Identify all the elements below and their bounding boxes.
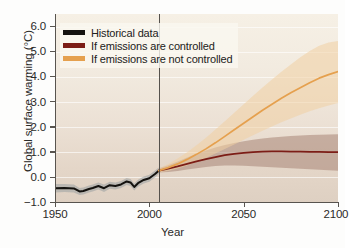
x-tick-mark xyxy=(149,202,150,207)
legend-item-controlled: If emissions are controlled xyxy=(63,39,232,52)
x-tick-label: 2100 xyxy=(306,208,353,220)
legend: Historical data If emissions are control… xyxy=(60,23,238,68)
y-axis-title-close: ) xyxy=(22,30,34,34)
y-tick-label: −1.0 xyxy=(24,196,46,208)
y-tick-mark xyxy=(50,101,55,102)
x-axis-line xyxy=(55,202,338,203)
y-axis-unit: °C xyxy=(22,34,34,47)
series-lines xyxy=(55,72,338,192)
y-tick-mark xyxy=(50,177,55,178)
x-tick-label: 2000 xyxy=(119,208,179,220)
y-tick-mark xyxy=(50,126,55,127)
legend-label-controlled: If emissions are controlled xyxy=(91,40,215,52)
y-tick-mark xyxy=(50,51,55,52)
y-axis-line xyxy=(55,14,56,202)
y-tick-mark xyxy=(50,151,55,152)
x-tick-mark xyxy=(55,202,56,207)
x-tick-label: 1950 xyxy=(25,208,85,220)
y-tick-mark xyxy=(50,76,55,77)
x-tick-mark xyxy=(244,202,245,207)
legend-label-uncontrolled: If emissions are not controlled xyxy=(91,53,232,65)
legend-item-historical: Historical data xyxy=(63,26,232,39)
y-axis-title-text: Global surface warming ( xyxy=(22,47,34,172)
y-axis-title: Global surface warming (°C) xyxy=(22,6,34,196)
y-tick-mark xyxy=(50,26,55,27)
legend-swatch-historical xyxy=(63,30,85,35)
legend-item-uncontrolled: If emissions are not controlled xyxy=(63,52,232,65)
x-axis-title: Year xyxy=(0,226,345,238)
legend-label-historical: Historical data xyxy=(91,27,158,39)
legend-swatch-controlled xyxy=(63,43,85,48)
legend-swatch-uncontrolled xyxy=(63,56,85,61)
x-tick-mark xyxy=(338,202,339,207)
x-tick-label: 2050 xyxy=(214,208,274,220)
